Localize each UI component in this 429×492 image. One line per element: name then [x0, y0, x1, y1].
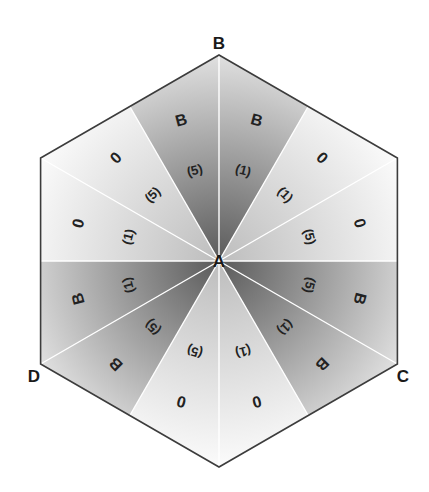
center-label-a: A: [213, 252, 225, 271]
hexagon-diagram: B(1)0(1)0(5)B(5)B(1)0(1)0(5)B(5)B(1)0(1)…: [0, 0, 429, 492]
vertex-label-b: B: [213, 34, 225, 53]
vertex-label-c: C: [397, 367, 409, 386]
vertex-label-d: D: [28, 367, 40, 386]
